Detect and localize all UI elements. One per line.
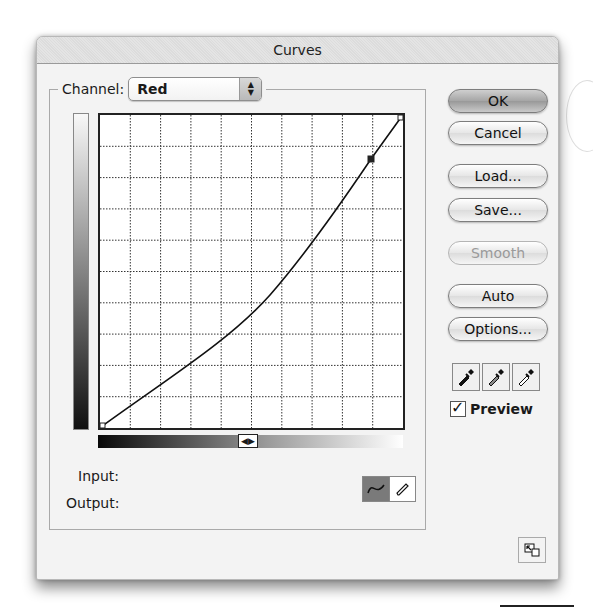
background-decoration-arc	[566, 80, 593, 152]
black-eyedropper-button[interactable]	[452, 363, 480, 391]
white-eyedropper-button[interactable]	[512, 363, 540, 391]
curves-dialog: Curves Channel: Red ▲▼	[36, 36, 559, 580]
expand-collapse-icon	[524, 543, 540, 557]
preview-row: ✓ Preview	[450, 401, 533, 417]
ok-button[interactable]: OK	[448, 89, 548, 113]
preview-label: Preview	[470, 401, 533, 417]
curve-icon	[367, 482, 385, 496]
curve-tool-toggle	[362, 476, 416, 502]
eyedropper-group	[452, 363, 542, 391]
gray-eyedropper-icon	[487, 368, 505, 386]
preview-checkbox[interactable]: ✓	[450, 401, 466, 417]
auto-button[interactable]: Auto	[448, 284, 548, 308]
up-down-arrows-icon: ▲▼	[239, 78, 261, 100]
output-gradient-bar	[73, 113, 89, 430]
output-label: Output:	[66, 495, 119, 511]
gray-eyedropper-button[interactable]	[482, 363, 510, 391]
gradient-swap-toggle[interactable]: ◀▶	[238, 434, 258, 448]
background-decoration-line	[500, 605, 574, 607]
smooth-button: Smooth	[448, 241, 548, 265]
channel-label: Channel:	[58, 81, 128, 97]
curve-endpoint-white	[398, 115, 403, 120]
input-label: Input:	[78, 468, 119, 484]
curve-endpoint-black	[100, 423, 105, 428]
channel-select-value: Red	[137, 81, 167, 97]
black-eyedropper-icon	[457, 368, 475, 386]
pencil-tool-button[interactable]	[389, 477, 415, 501]
load-button[interactable]: Load...	[448, 164, 548, 188]
curve-graph-svg	[100, 115, 403, 428]
save-button[interactable]: Save...	[448, 198, 548, 222]
curve-tool-button[interactable]	[363, 477, 389, 501]
input-gradient-bar: ◀▶	[98, 435, 403, 448]
checkmark-icon: ✓	[451, 398, 464, 417]
curve-control-point	[368, 156, 375, 163]
grid-lines	[100, 115, 403, 428]
options-button[interactable]: Options...	[448, 317, 548, 341]
cancel-button[interactable]: Cancel	[448, 121, 548, 145]
title-bar[interactable]: Curves	[37, 37, 558, 64]
channel-row: Channel: Red ▲▼	[58, 77, 266, 101]
expand-graph-button[interactable]	[518, 537, 546, 563]
white-eyedropper-icon	[517, 368, 535, 386]
window-title: Curves	[273, 42, 322, 58]
channel-select[interactable]: Red ▲▼	[128, 77, 262, 101]
curve-graph[interactable]	[98, 113, 405, 430]
pencil-icon	[395, 481, 411, 497]
